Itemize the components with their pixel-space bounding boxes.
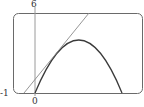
- x-min-label: -1: [0, 89, 9, 98]
- x-origin-label: 0: [32, 97, 38, 106]
- graph-screen: [0, 0, 144, 107]
- tangent-line: [24, 13, 89, 93]
- y-max-label: 6: [31, 0, 37, 9]
- parabola-curve: [35, 40, 122, 93]
